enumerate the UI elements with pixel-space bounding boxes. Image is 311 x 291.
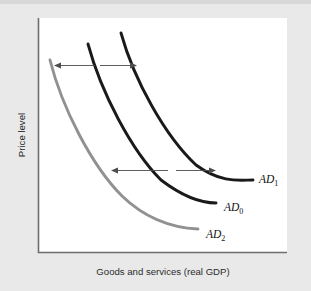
top-left-shift-arrow xyxy=(54,62,95,68)
y-axis-title: Price level xyxy=(16,113,27,157)
curve-label-ad2: AD2 xyxy=(205,228,225,243)
chart-canvas: AD1 AD0 AD2 Price level Goods and servic… xyxy=(0,0,311,291)
x-axis-title: Goods and services (real GDP) xyxy=(96,266,229,277)
axis-lines xyxy=(39,18,288,253)
aggregate-demand-figure: AD1 AD0 AD2 Price level Goods and servic… xyxy=(0,0,311,291)
mid-left-shift-arrow xyxy=(111,167,168,173)
mid-right-shift-arrow xyxy=(176,167,216,173)
curve-label-ad1: AD1 xyxy=(258,173,278,188)
top-right-shift-arrow xyxy=(100,62,137,68)
curve-label-ad0: AD0 xyxy=(223,201,243,216)
